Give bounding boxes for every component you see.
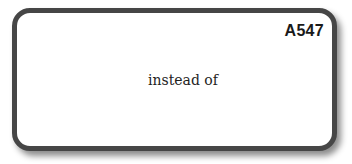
card-phrase: instead of bbox=[148, 72, 218, 88]
flash-card: A547 instead of bbox=[12, 8, 337, 151]
card-code: A547 bbox=[285, 22, 324, 40]
